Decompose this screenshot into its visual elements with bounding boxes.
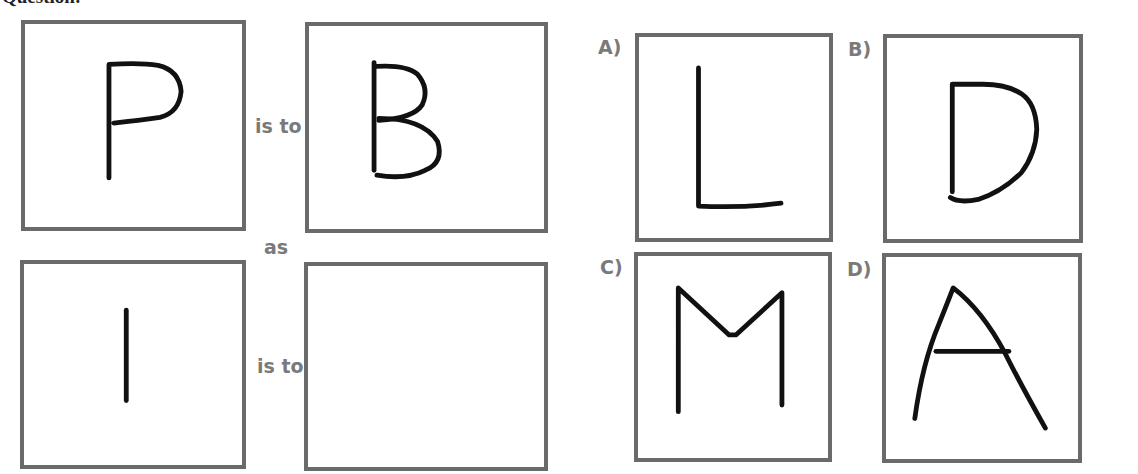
option-c-label: C) (600, 256, 623, 278)
letter-d-drawing (887, 38, 1079, 239)
letter-b-drawing (309, 26, 544, 229)
option-d-box[interactable] (882, 253, 1082, 463)
letter-m-drawing (638, 256, 828, 458)
option-a-box[interactable] (635, 33, 833, 242)
question-box-i (20, 260, 246, 469)
question-box-b (305, 22, 548, 233)
question-box-p (21, 20, 246, 231)
option-b-box[interactable] (883, 34, 1083, 243)
connector-is-to-1: is to (255, 115, 302, 137)
letter-i-drawing (24, 264, 242, 465)
connector-as: as (264, 236, 288, 258)
option-d-label: D) (847, 258, 871, 280)
option-a-label: A) (598, 36, 621, 58)
question-heading: Question: (2, 0, 81, 8)
question-box-answer-blank (304, 262, 548, 471)
connector-is-to-2: is to (257, 355, 304, 377)
option-b-label: B) (848, 38, 871, 60)
letter-a-drawing (886, 257, 1078, 459)
option-c-box[interactable] (634, 252, 832, 462)
letter-p-drawing (25, 24, 242, 227)
letter-l-drawing (639, 37, 829, 238)
